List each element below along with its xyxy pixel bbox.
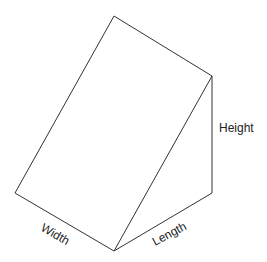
width-label: Width — [39, 220, 73, 247]
edge-hypotenuse — [114, 76, 212, 251]
edge-left-top — [15, 16, 114, 193]
length-label: Length — [150, 219, 189, 249]
height-label: Height — [219, 121, 254, 135]
triangular-prism-diagram: Height Width Length — [0, 0, 267, 262]
edge-top-right — [114, 16, 212, 76]
